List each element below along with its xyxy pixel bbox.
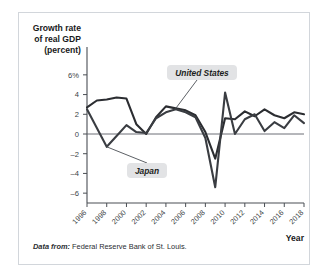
x-tick-label: 2006: [169, 208, 187, 226]
chart-plot-area: Growth rateof real GDP(percent) 6%420–2–…: [19, 13, 311, 266]
callout-label-united-states: United States: [175, 68, 229, 78]
x-tick-label: 2014: [248, 208, 266, 226]
source-note-lead: Data from:: [33, 242, 70, 251]
x-tick-label: 2016: [268, 208, 286, 226]
x-tick-label: 2004: [149, 208, 167, 226]
y-axis-title: Growth rateof real GDP(percent): [33, 23, 81, 55]
data-series-group: [87, 93, 304, 188]
y-tick-label: –6: [71, 189, 79, 198]
figure-panel: Growth rateof real GDP(percent) 6%420–2–…: [18, 12, 310, 265]
x-tick-label: 2008: [189, 208, 207, 226]
x-tick-label: 1996: [70, 208, 88, 226]
y-tick-label: 0: [75, 130, 79, 139]
x-axis-title: Year: [286, 233, 305, 243]
y-tick-label: –2: [71, 150, 79, 159]
x-axis-title: Year: [286, 233, 305, 243]
y-tick-label: –4: [71, 169, 79, 178]
callout-label-japan: Japan: [135, 166, 159, 176]
x-axis-ticks: 1996199820002002200420062008201020122014…: [70, 203, 305, 226]
source-note: Data from: Federal Reserve Bank of St. L…: [33, 242, 187, 251]
gdp-growth-line-chart: Growth rateof real GDP(percent) 6%420–2–…: [19, 13, 311, 266]
y-axis-title-line: of real GDP: [34, 34, 81, 44]
callout-leader-united-states: [176, 80, 197, 108]
x-tick-label: 2018: [287, 208, 305, 226]
series-line-united-states: [87, 98, 304, 159]
x-tick-label: 2000: [110, 208, 128, 226]
x-tick-label: 1998: [90, 208, 108, 226]
x-tick-label: 2010: [209, 208, 227, 226]
callout-leader-japan: [107, 147, 147, 163]
series-line-japan: [87, 93, 304, 188]
y-axis-ticks: 6%420–2–4–6: [68, 71, 87, 198]
y-tick-label: 4: [75, 90, 79, 99]
y-tick-label: 6%: [68, 71, 79, 80]
x-tick-label: 2002: [130, 208, 148, 226]
y-axis-title-line: Growth rate: [33, 23, 81, 33]
x-tick-label: 2012: [228, 208, 246, 226]
y-tick-label: 2: [75, 110, 79, 119]
y-axis-title-line: (percent): [44, 45, 81, 55]
source-note-text: Federal Reserve Bank of St. Louis.: [72, 242, 187, 251]
